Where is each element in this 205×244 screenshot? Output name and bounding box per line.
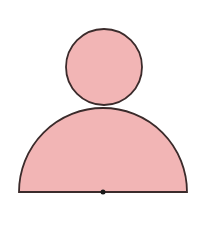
composite-shape-figure bbox=[0, 0, 205, 244]
diagram-canvas bbox=[0, 0, 205, 244]
circle-shape bbox=[66, 29, 142, 105]
semicircle-shape bbox=[19, 108, 187, 192]
center-point-dot bbox=[101, 190, 106, 195]
